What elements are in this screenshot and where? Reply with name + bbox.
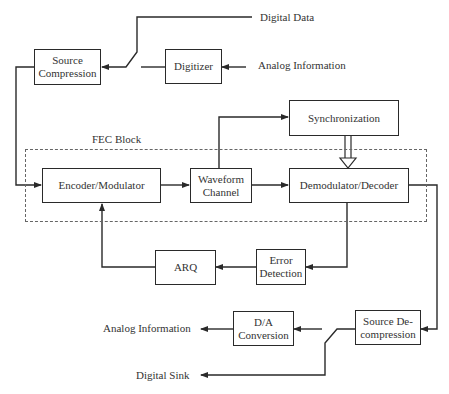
digital-data-terminal: Digital Data bbox=[260, 11, 314, 24]
source-compression-block: SourceCompression bbox=[34, 49, 101, 85]
waveform-channel-line1: Waveform bbox=[198, 173, 244, 186]
digital-sink-terminal: Digital Sink bbox=[136, 369, 189, 382]
error-detection-line2: Detection bbox=[260, 267, 303, 280]
da-conversion-block: D/AConversion bbox=[233, 311, 294, 346]
fec-block-label: FEC Block bbox=[92, 133, 141, 146]
demodulator-decoder-block: Demodulator/Decoder bbox=[289, 168, 409, 203]
waveform-channel-line2: Channel bbox=[198, 186, 244, 199]
source-compression-line2: Compression bbox=[38, 67, 96, 80]
error-detection-line1: Error bbox=[260, 254, 303, 267]
da-conversion-line1: D/A bbox=[238, 316, 289, 329]
analog-information-input-terminal: Analog Information bbox=[258, 59, 346, 72]
da-conversion-line2: Conversion bbox=[238, 329, 289, 342]
source-decompression-block: Source De-compression bbox=[355, 310, 421, 345]
analog-information-output-terminal: Analog Information bbox=[103, 322, 191, 335]
source-decompression-line2: compression bbox=[360, 328, 416, 341]
waveform-channel-block: WaveformChannel bbox=[190, 168, 252, 203]
digitizer-block: Digitizer bbox=[165, 49, 222, 84]
source-decompression-line1: Source De- bbox=[360, 315, 416, 328]
arq-block: ARQ bbox=[155, 250, 216, 285]
error-detection-block: ErrorDetection bbox=[256, 249, 306, 285]
source-compression-line1: Source bbox=[38, 54, 96, 67]
encoder-modulator-block: Encoder/Modulator bbox=[42, 168, 161, 203]
synchronization-block: Synchronization bbox=[289, 100, 399, 136]
